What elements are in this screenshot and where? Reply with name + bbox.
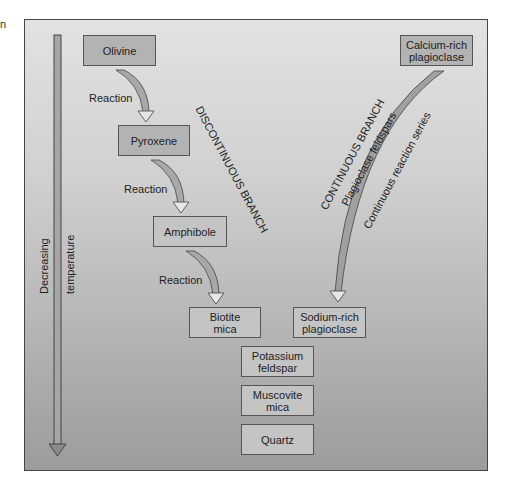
mineral-box-sodium-rich-plagioclase: Sodium-rich plagioclase [293,307,366,338]
temperature-label: temperature [64,235,76,294]
mineral-name-line1: Calcium-rich [406,39,467,51]
mineral-name: Olivine [103,45,137,57]
reaction-label-3: Reaction [159,274,202,286]
mineral-name: Quartz [261,434,294,446]
mineral-name-line1: Biotite [210,311,241,323]
mineral-box-quartz: Quartz [241,424,314,455]
mineral-box-potassium-feldspar: Potassium feldspar [241,346,314,377]
mineral-box-muscovite-mica: Muscovite mica [241,385,314,416]
mineral-box-pyroxene: Pyroxene [118,125,190,156]
mineral-name-line2: mica [266,401,289,413]
reaction-label-1: Reaction [89,92,132,104]
mineral-name-line2: plagioclase [409,51,464,63]
reaction-label-2: Reaction [124,183,167,195]
mineral-name-line2: plagioclase [302,323,357,335]
mineral-box-amphibole: Amphibole [153,216,227,247]
mineral-name: Amphibole [164,226,216,238]
mineral-name: Pyroxene [131,135,177,147]
mineral-box-calcium-rich-plagioclase: Calcium-rich plagioclase [400,35,473,66]
mineral-box-biotite-mica: Biotite mica [189,307,261,338]
mineral-name-line1: Muscovite [253,389,303,401]
mineral-name-line1: Potassium [252,350,303,362]
mineral-box-olivine: Olivine [83,35,156,66]
mineral-name-line2: feldspar [258,362,297,374]
arrows-layer [0,0,509,494]
mineral-name-line2: mica [213,323,236,335]
mineral-name-line1: Sodium-rich [300,311,359,323]
decreasing-label: Decreasing [38,238,50,294]
